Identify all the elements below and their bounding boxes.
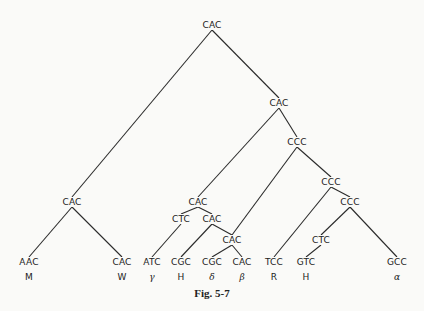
leaf-species-label: M	[25, 272, 33, 282]
tree-edge	[306, 245, 321, 257]
leaf-species-label: β	[239, 272, 244, 282]
internal-node-label: CAC	[187, 197, 208, 207]
tree-edge	[212, 245, 232, 257]
internal-node-label: CCC	[339, 197, 360, 207]
leaf-species-label: R	[271, 272, 277, 282]
leaf-species-label: W	[118, 272, 127, 282]
tree-edge	[198, 207, 212, 214]
internal-node-label: CTC	[171, 214, 191, 224]
internal-node-label: CAC	[221, 235, 242, 245]
tree-edge	[212, 30, 279, 98]
leaf-codon-label: CAC	[111, 257, 132, 267]
internal-node-label: CCC	[320, 177, 341, 187]
leaf-species-label: γ	[149, 272, 154, 282]
tree-edge	[232, 147, 297, 235]
leaf-species-label: H	[178, 272, 185, 282]
tree-edge	[29, 207, 72, 257]
tree-edge	[181, 207, 198, 214]
tree-edge	[232, 245, 242, 257]
leaf-codon-label: AAC	[18, 257, 39, 267]
internal-node-label: CTC	[311, 235, 331, 245]
tree-edge	[72, 207, 122, 257]
figure-caption: Fig. 5-7	[194, 287, 229, 299]
tree-edge	[297, 147, 331, 177]
tree-edge	[212, 224, 232, 235]
internal-node-label: CAC	[201, 214, 222, 224]
tree-edge	[350, 207, 397, 257]
leaf-species-label: α	[394, 272, 400, 282]
internal-node-label: CAC	[268, 98, 289, 108]
tree-edge	[279, 108, 297, 137]
leaf-codon-label: ATC	[142, 257, 161, 267]
leaf-species-label: H	[303, 272, 310, 282]
leaf-codon-label: GTC	[296, 257, 317, 267]
tree-edge	[72, 30, 212, 197]
leaf-codon-label: GCC	[386, 257, 408, 267]
tree-edge	[331, 187, 350, 197]
tree-edge	[321, 207, 350, 235]
internal-node-label: CAC	[201, 20, 222, 30]
internal-node-label: CAC	[61, 197, 82, 207]
leaf-codon-label: CGC	[170, 257, 192, 267]
tree-edge	[274, 187, 331, 257]
tree-edge	[181, 224, 212, 257]
tree-edge	[198, 108, 279, 197]
leaf-codon-label: CAC	[231, 257, 252, 267]
leaf-species-label: δ	[209, 272, 214, 282]
internal-node-label: CCC	[286, 137, 307, 147]
leaf-codon-label: TCC	[264, 257, 284, 267]
leaf-codon-label: CGC	[201, 257, 223, 267]
tree-edge	[152, 224, 181, 257]
